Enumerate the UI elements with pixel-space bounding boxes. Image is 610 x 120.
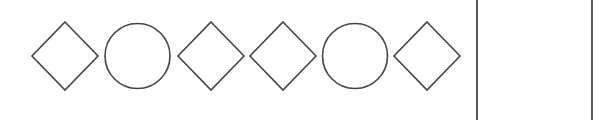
circle-shape <box>323 24 388 89</box>
diamond-shape <box>250 22 316 90</box>
shape-sequence-puzzle <box>0 0 610 120</box>
diamond-shape <box>178 22 244 90</box>
sequence-drawing <box>0 0 610 120</box>
diamond-shape <box>394 22 460 90</box>
diamond-shape <box>32 22 98 90</box>
circle-shape <box>105 24 170 89</box>
